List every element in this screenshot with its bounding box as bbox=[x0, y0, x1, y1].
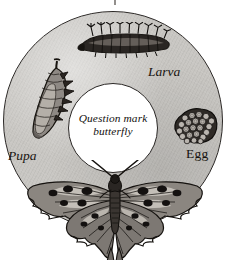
top-edge-speck bbox=[114, 0, 116, 5]
egg-cluster-icon bbox=[172, 106, 220, 146]
center-caption-line1: Question mark bbox=[68, 112, 158, 125]
life-cycle-diagram: Question mark butterfly Larva Egg Pupa bbox=[0, 0, 228, 261]
caterpillar-icon bbox=[76, 22, 174, 58]
center-caption-line2: butterfly bbox=[68, 125, 158, 138]
stage-label-egg: Egg bbox=[186, 146, 208, 162]
butterfly-icon bbox=[22, 160, 208, 260]
stage-label-pupa: Pupa bbox=[8, 148, 37, 164]
center-caption: Question mark butterfly bbox=[68, 112, 158, 139]
stage-label-larva: Larva bbox=[148, 64, 180, 80]
